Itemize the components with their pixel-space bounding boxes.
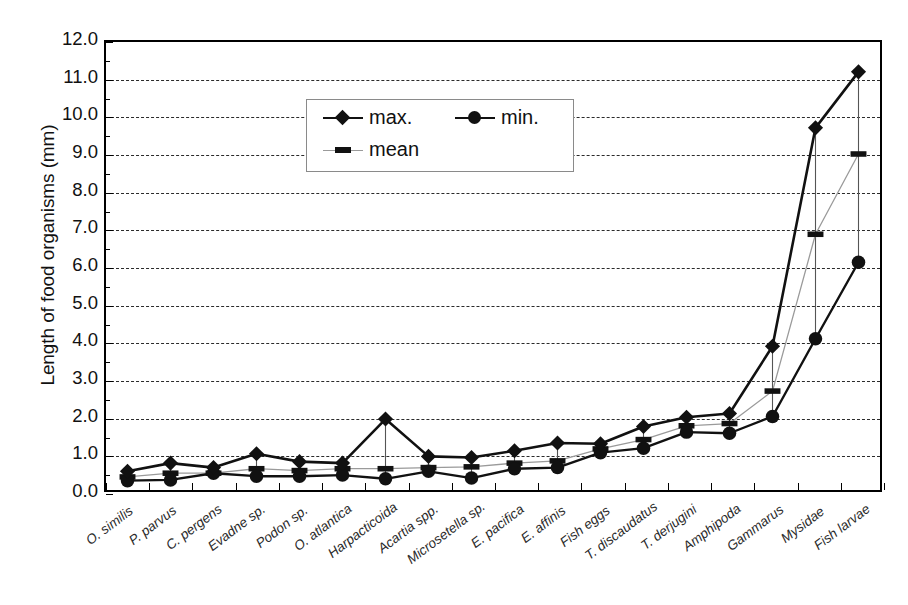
y-tick-label: 0.0 (46, 482, 98, 501)
data-point-mean[interactable] (808, 231, 824, 237)
legend-label-min: min. (501, 106, 539, 129)
legend-item-mean[interactable]: mean (323, 138, 419, 161)
y-tick-label: 12.0 (46, 30, 98, 49)
data-point-min[interactable] (852, 256, 866, 269)
data-point-max[interactable] (507, 443, 522, 458)
y-tick-label: 5.0 (46, 294, 98, 313)
y-tick-label: 9.0 (46, 143, 98, 162)
data-point-min[interactable] (508, 462, 522, 475)
data-point-min[interactable] (164, 473, 178, 486)
data-point-min[interactable] (809, 332, 823, 345)
data-point-max[interactable] (636, 419, 651, 434)
data-point-mean[interactable] (765, 388, 781, 394)
data-point-max[interactable] (722, 406, 737, 421)
y-tick-label: 3.0 (46, 369, 98, 388)
y-tick-label: 11.0 (46, 68, 98, 87)
x-tickmark (884, 483, 885, 490)
y-tick-label: 7.0 (46, 218, 98, 237)
y-axis-tick-labels: 0.01.02.03.04.05.06.07.08.09.010.011.012… (42, 0, 98, 605)
data-point-min[interactable] (723, 427, 737, 440)
y-tickmark (106, 494, 113, 495)
data-point-min[interactable] (293, 469, 307, 482)
data-point-min[interactable] (637, 441, 651, 454)
dash-marker-icon (323, 140, 363, 160)
legend: max. min. mean (306, 99, 574, 172)
chart-figure: Length of food organisms (mm) 0.01.02.03… (0, 0, 908, 605)
plot-area: max. min. mean (104, 40, 882, 492)
legend-label-max: max. (369, 106, 412, 129)
data-point-min[interactable] (379, 472, 393, 485)
data-point-max[interactable] (464, 450, 479, 465)
series-line-min (128, 262, 859, 480)
data-point-min[interactable] (680, 425, 694, 438)
data-point-min[interactable] (465, 471, 479, 484)
legend-item-min[interactable]: min. (455, 106, 539, 129)
circle-marker-icon (455, 108, 495, 128)
data-point-max[interactable] (679, 410, 694, 425)
series-line-mean (128, 154, 859, 477)
legend-item-max[interactable]: max. (323, 106, 412, 129)
data-point-min[interactable] (422, 465, 436, 478)
data-point-mean[interactable] (722, 421, 738, 427)
data-point-max[interactable] (249, 446, 264, 461)
y-tick-label: 6.0 (46, 256, 98, 275)
y-tick-label: 1.0 (46, 444, 98, 463)
data-point-min[interactable] (250, 469, 264, 482)
data-point-min[interactable] (766, 410, 780, 423)
y-tick-label: 2.0 (46, 407, 98, 426)
data-point-max[interactable] (292, 454, 307, 469)
y-tick-label: 10.0 (46, 105, 98, 124)
x-tick-label: T. discaudatus (582, 499, 660, 563)
data-point-min[interactable] (551, 461, 565, 474)
data-point-max[interactable] (550, 435, 565, 450)
y-tick-label: 8.0 (46, 181, 98, 200)
legend-label-mean: mean (369, 138, 419, 161)
data-point-mean[interactable] (378, 466, 394, 472)
data-point-mean[interactable] (851, 151, 867, 157)
data-point-max[interactable] (765, 339, 780, 354)
data-point-max[interactable] (163, 456, 178, 471)
diamond-marker-icon (323, 108, 363, 128)
y-tick-label: 4.0 (46, 331, 98, 350)
